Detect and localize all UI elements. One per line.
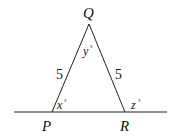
triangle-diagram: Q P R 5 5 y ° x ° z ° [0,0,173,138]
vertex-label-r: R [119,118,129,134]
degree-z: ° [138,98,141,106]
angle-label-x: x [56,98,63,112]
side-length-pq: 5 [56,67,63,82]
vertex-label-q: Q [83,5,94,21]
degree-x: ° [64,98,67,106]
angle-label-z: z [130,98,136,112]
degree-y: ° [90,44,93,52]
side-length-qr: 5 [115,67,122,82]
angle-label-y: y [82,44,89,58]
vertex-label-p: P [41,118,51,134]
